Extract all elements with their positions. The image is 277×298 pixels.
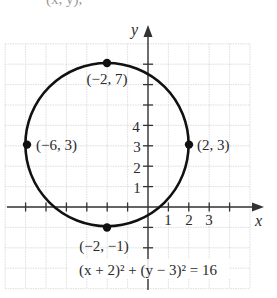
y-axis-arrow-icon xyxy=(144,25,153,37)
figure: (x, y), x y 1 2 3 4 1 2 3 (−2, 7) (−6, 3… xyxy=(0,0,277,298)
point-left xyxy=(23,140,31,148)
x-tick-label-1: 1 xyxy=(164,212,172,228)
y-tick-label-3: 3 xyxy=(133,139,141,155)
point-label-top: (−2, 7) xyxy=(87,71,128,88)
point-right xyxy=(185,140,193,148)
y-tick-label-4: 4 xyxy=(132,119,140,135)
x-tick-label-3: 3 xyxy=(205,212,213,228)
circle-graph: x y 1 2 3 4 1 2 3 (−2, 7) (−6, 3) (2, 3)… xyxy=(0,0,277,298)
point-top xyxy=(103,59,111,67)
point-label-right: (2, 3) xyxy=(197,137,230,154)
equation-label: (x + 2)² + (y − 3)² = 16 xyxy=(79,262,217,279)
point-label-bottom: (−2, −1) xyxy=(79,238,128,255)
x-axis-label: x xyxy=(254,212,262,229)
x-tick-label-2: 2 xyxy=(185,212,193,228)
axes xyxy=(7,25,264,290)
point-bottom xyxy=(103,223,111,231)
y-axis-label: y xyxy=(129,21,139,39)
x-axis-arrow-icon xyxy=(252,203,264,212)
y-tick-label-1: 1 xyxy=(133,180,141,196)
cutoff-header-text: (x, y), xyxy=(46,0,82,8)
y-tick-label-2: 2 xyxy=(133,160,141,176)
point-label-left: (−6, 3) xyxy=(36,137,77,154)
